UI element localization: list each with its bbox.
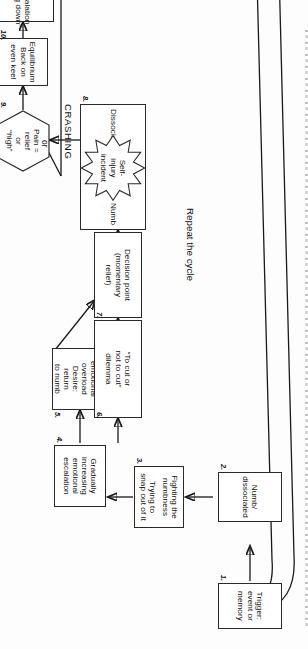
node-6-line-3: dilemma <box>104 353 113 384</box>
node-2-line-1: Numb/ <box>250 485 259 509</box>
diagram-canvas: Trigger: event or memory 1. Numb/ dissoc… <box>0 0 308 649</box>
branch-label-or: or <box>40 140 50 147</box>
node-4-line-1: Gradually <box>89 458 98 494</box>
node-9-text: Pain = relief or “high” <box>5 129 41 153</box>
node-6-number: 6. <box>95 412 104 418</box>
node-4-line-3: emotional <box>71 458 80 494</box>
node-9-number: 9. <box>0 102 8 108</box>
node-10-equilibrium[interactable]: Equilibrium Back on even keel <box>0 38 48 86</box>
node-6-line-2: not to cut” <box>113 350 122 387</box>
node-7-number: 7. <box>95 312 104 318</box>
node-2-numb-dissociated[interactable]: Numb/ dissociated <box>218 472 282 522</box>
node-11-de-escalation[interactable]: De-escalation “Coming down” <box>0 0 54 22</box>
node-2-number: 2. <box>219 464 228 470</box>
repeat-the-cycle-label: Repeat the cycle <box>185 208 196 281</box>
node-7-line-1: Decision point <box>123 249 132 301</box>
node-10-number: 10. <box>0 30 8 40</box>
node-8-number: 8. <box>81 96 90 102</box>
node-3-fighting-numbness[interactable]: Fighting the numbness Trying to snap out… <box>134 466 184 528</box>
node-8-burst: Self- injury incident <box>80 128 146 208</box>
node-3-line-1: Fighting the <box>170 475 179 519</box>
node-1-line-2: event or <box>245 591 254 621</box>
node-8-line-3: incident <box>99 154 108 182</box>
node-7-line-2: (momentary <box>113 253 122 297</box>
crashing-label: CRASHING <box>63 104 74 159</box>
node-4-escalation[interactable]: Gradually increasing emotional escalatio… <box>54 445 106 507</box>
node-7-line-3: relief) <box>104 265 113 286</box>
node-8-line-1: Self- <box>118 160 127 177</box>
node-5-number: 5. <box>53 412 62 418</box>
node-6-line-1: “To cut or <box>123 352 132 387</box>
node-4-number: 4. <box>55 437 64 443</box>
node-10-line-3: even keel <box>9 44 18 80</box>
node-7-decision-point[interactable]: Decision point (momentary relief) <box>94 232 142 318</box>
node-5-line-6: to numb <box>53 364 62 394</box>
node-6-to-cut-or-not[interactable]: “To cut or not to cut” dilemma <box>94 320 142 418</box>
node-1-line-3: memory <box>236 591 245 621</box>
node-1-trigger[interactable]: Trigger: event or memory <box>218 583 282 629</box>
node-8-burst-text: Self- injury incident <box>80 128 146 208</box>
node-9-line-3: or <box>14 137 23 144</box>
connector-lines <box>0 0 308 649</box>
node-10-line-1: Equilibrium <box>28 41 37 82</box>
node-3-line-2: numbness <box>161 478 170 516</box>
node-5-line-5: return <box>62 368 71 390</box>
node-5-line-4: Desire: <box>71 366 80 392</box>
node-9-line-2: relief <box>23 132 32 150</box>
node-9-line-4: “high” <box>5 130 14 151</box>
node-9-line-1: Pain = <box>32 129 41 153</box>
node-1-number: 1. <box>219 575 228 581</box>
node-10-line-2: Back on <box>18 47 27 77</box>
node-4-line-2: increasing <box>80 457 89 495</box>
node-1-line-1: Trigger: <box>255 592 264 620</box>
node-8-line-2: injury <box>108 158 117 177</box>
node-5-line-3: overload <box>80 363 89 395</box>
node-3-line-4: snap out of it <box>139 473 148 521</box>
node-2-line-2: dissociated <box>241 476 250 518</box>
node-3-number: 3. <box>135 458 144 464</box>
node-4-line-4: escalation <box>62 457 71 494</box>
node-3-line-3: Trying to <box>148 481 157 513</box>
node-11-line-2: “Coming down” <box>14 0 23 27</box>
node-11-line-1: De-escalation <box>23 0 32 24</box>
